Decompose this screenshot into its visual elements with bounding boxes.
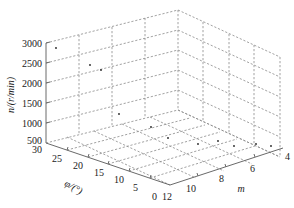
phi-tick-label: 25 [52, 153, 62, 164]
phi-tick-labels: 30 25 20 15 10 5 0 [32, 144, 157, 202]
m-tick-label: 10 [186, 183, 196, 194]
data-point [150, 126, 152, 128]
data-point [197, 143, 199, 145]
phi-axis-label: φ/(°) [62, 177, 85, 197]
data-point [233, 145, 235, 147]
phi-tick-label: 20 [73, 160, 83, 171]
data-points [55, 47, 272, 147]
data-point [167, 137, 169, 139]
z-tick-labels: 3000 2500 2000 1500 1000 500 [22, 38, 42, 146]
z-tick-label: 1000 [22, 118, 42, 129]
phi-tick-label: 15 [94, 167, 104, 178]
m-tick-label: 4 [285, 151, 290, 162]
data-point [100, 69, 102, 71]
z-tick-label: 2500 [22, 58, 42, 69]
m-axis-label: m [237, 183, 244, 194]
data-point [255, 143, 257, 145]
data-point [217, 140, 219, 142]
phi-tick-label: 0 [152, 191, 157, 202]
z-tick-label: 2000 [22, 78, 42, 89]
data-point [55, 47, 57, 49]
data-point [270, 145, 272, 147]
z-axis-label: n/(r/min) [5, 76, 17, 113]
m-tick-label: 6 [250, 163, 255, 174]
3d-scatter-chart: 3000 2500 2000 1500 1000 500 30 25 20 15… [0, 0, 294, 208]
m-tick-label: 12 [162, 191, 172, 202]
m-tick-labels: 12 10 8 6 4 [162, 151, 290, 202]
z-tick-label: 1500 [22, 98, 42, 109]
phi-tick-label: 30 [32, 144, 42, 155]
data-point [89, 64, 91, 66]
phi-tick-label: 10 [114, 174, 124, 185]
gridlines [46, 10, 280, 185]
m-tick-label: 8 [219, 173, 224, 184]
phi-tick-label: 5 [133, 182, 138, 193]
data-point [118, 113, 120, 115]
z-tick-label: 3000 [22, 38, 42, 49]
